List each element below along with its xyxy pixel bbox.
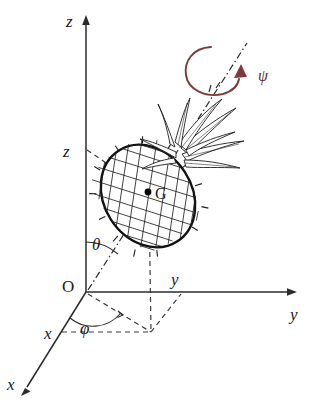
y-axis: [86, 288, 297, 295]
polar-angle-arc: [86, 242, 118, 254]
z-coordinate-label: z: [62, 142, 70, 161]
origin-label: O: [62, 277, 74, 296]
x-coordinate-label: x: [43, 324, 52, 343]
z-axis-arrowhead: [82, 15, 90, 25]
z-axis-label: z: [65, 12, 73, 31]
y-component-line: [151, 294, 181, 332]
y-axis-arrowhead: [287, 288, 297, 295]
crown-leaf-4: [158, 104, 175, 147]
z-axis: [82, 15, 90, 292]
polar-angle-label: θ: [92, 235, 100, 254]
x-axis-label: x: [6, 375, 15, 394]
y-coordinate-label: y: [169, 270, 179, 289]
azimuth-angle-arc: [70, 314, 120, 326]
x-axis: [21, 292, 86, 396]
spin-arc: [186, 47, 239, 95]
x-axis-arrowhead: [21, 388, 31, 396]
figure-canvas: z y x O z y x θ φ ψ G: [0, 0, 322, 408]
angle-arcs: [70, 242, 123, 326]
azimuth-angle-label: φ: [80, 319, 89, 338]
coordinate-diagram: z y x O z y x θ φ ψ G: [0, 0, 322, 408]
center-of-mass-label: G: [155, 185, 167, 202]
crown-tufts: [209, 82, 220, 92]
spin-arrowhead: [234, 64, 247, 78]
y-axis-label: y: [288, 305, 298, 324]
x-axis-line: [27, 292, 86, 387]
spin-angle-label: ψ: [258, 67, 269, 85]
center-of-mass-dot: [145, 189, 152, 196]
